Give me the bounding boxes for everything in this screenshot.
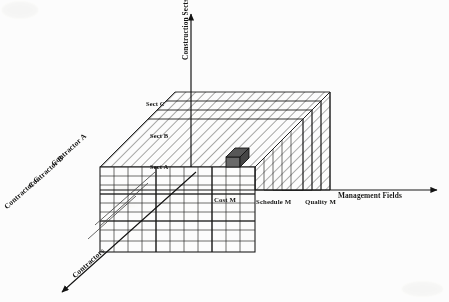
scan-artifact <box>103 203 143 209</box>
section-label-sect-b-text: Sect B <box>150 132 168 139</box>
scan-artifact <box>105 185 150 193</box>
section-label-sect-a-text: Sect A <box>150 163 168 170</box>
section-label-sect-b: Sect B <box>150 133 168 140</box>
field-label-schedule-m: Schedule M <box>256 199 291 206</box>
field-label-quality-m-text: Quality M <box>305 198 336 205</box>
axis-label-management-fields-text: Management Fields <box>338 191 402 200</box>
section-label-sect-c: Sect C <box>146 101 165 108</box>
axis-label-construction-sects-text: Construction Sects <box>181 0 190 60</box>
section-label-sect-c-text: Sect C <box>146 100 165 107</box>
front-face-grid <box>100 167 255 252</box>
axis-label-management-fields: Management Fields <box>338 192 402 199</box>
field-label-cost-m: Cost M <box>214 197 236 204</box>
field-label-quality-m: Quality M <box>305 199 336 206</box>
section-label-sect-a: Sect A <box>150 164 168 171</box>
field-label-schedule-m-text: Schedule M <box>256 198 291 205</box>
scan-artifact <box>400 280 445 298</box>
field-label-cost-m-text: Cost M <box>214 196 236 203</box>
scan-artifact <box>0 0 40 20</box>
figure-canvas: Construction Sects Management Fields Con… <box>0 0 449 302</box>
axis-label-construction-sects: Construction Sects <box>182 0 189 60</box>
